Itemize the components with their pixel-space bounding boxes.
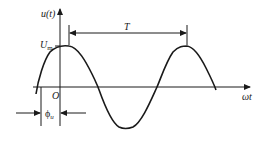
amplitude-label-sub: m	[47, 44, 53, 52]
x-axis-label: ωt	[242, 91, 252, 102]
sine-wave-diagram: u(t) Um T O ωt ϕu	[0, 0, 267, 144]
origin-label: O	[52, 90, 59, 101]
period-label: T	[124, 21, 131, 32]
phase-label-sub: u	[50, 113, 54, 121]
y-axis-label: u(t)	[41, 8, 56, 20]
phase-label: ϕu	[45, 108, 54, 121]
amplitude-label: Um	[40, 39, 53, 52]
